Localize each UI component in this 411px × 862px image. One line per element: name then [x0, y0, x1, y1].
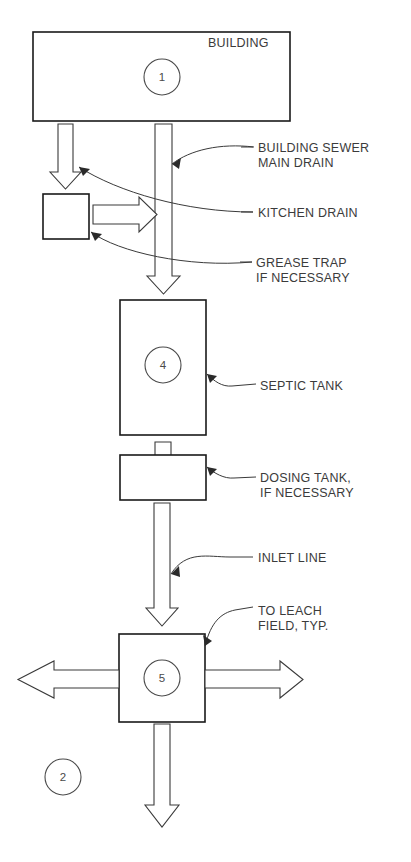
- leach-field-right-arrow: [205, 661, 303, 698]
- to-leach-field-label-line-1: TO LEACH: [258, 604, 322, 618]
- callout-dosing-tank[interactable]: DOSING TANK, IF NECESSARY: [207, 467, 354, 500]
- detail-tag-2[interactable]: 2: [45, 759, 81, 795]
- building-label: BUILDING: [208, 36, 269, 50]
- node-distribution-box[interactable]: 5: [119, 634, 205, 722]
- kitchen-drain-label: KITCHEN DRAIN: [258, 206, 358, 220]
- dosing-tank-arrowhead: [207, 467, 217, 476]
- grease-trap-label-line-2: IF NECESSARY: [256, 271, 350, 285]
- building-sewer-label-line-2: MAIN DRAIN: [258, 156, 334, 170]
- building-sewer-leader-curve: [172, 146, 254, 164]
- node-septic-tank[interactable]: 4: [120, 300, 206, 435]
- to-leach-field-leader: [205, 607, 253, 646]
- septic-flow-diagram: BUILDING 1 4 5: [0, 0, 411, 862]
- building-sewer-arrowhead: [172, 158, 181, 169]
- building-tag-number: 1: [159, 71, 165, 83]
- grease-trap-box[interactable]: [43, 194, 89, 239]
- detail-2-tag-number: 2: [60, 771, 66, 783]
- to-leach-field-label-line-2: FIELD, TYP.: [258, 619, 329, 633]
- grease-trap-arrowhead: [91, 232, 102, 241]
- grease-trap-label-line-1: GREASE TRAP: [256, 256, 347, 270]
- dosing-tank-label-line-1: DOSING TANK,: [260, 471, 351, 485]
- node-grease-trap[interactable]: [43, 194, 89, 239]
- callout-grease-trap[interactable]: GREASE TRAP IF NECESSARY: [91, 232, 350, 285]
- leach-field-left-arrow: [18, 661, 119, 698]
- septic-tank-tag-number: 4: [160, 359, 167, 371]
- callout-to-leach-field[interactable]: TO LEACH FIELD, TYP.: [203, 604, 329, 646]
- dosing-tank-label-line-2: IF NECESSARY: [260, 486, 354, 500]
- dosing-tank-box[interactable]: [120, 455, 206, 500]
- node-dosing-tank[interactable]: [120, 455, 206, 500]
- callout-inlet-line[interactable]: INLET LINE: [171, 551, 326, 577]
- leach-field-down-arrow: [145, 724, 179, 827]
- inlet-line-leader: [171, 556, 253, 574]
- dosing-outlet-arrow: [146, 503, 178, 626]
- distribution-box-tag-number: 5: [159, 672, 165, 684]
- node-building[interactable]: BUILDING 1: [33, 32, 290, 121]
- callout-septic-tank[interactable]: SEPTIC TANK: [207, 374, 343, 393]
- inlet-line-label: INLET LINE: [258, 551, 326, 565]
- callout-building-sewer-main-drain[interactable]: BUILDING SEWER MAIN DRAIN: [172, 141, 369, 170]
- diagram-canvas: BUILDING 1 4 5: [0, 0, 411, 862]
- kitchen-drain-arrow: [50, 124, 81, 189]
- septic-tank-label: SEPTIC TANK: [260, 379, 343, 393]
- grease-trap-outlet-arrow: [93, 197, 157, 232]
- building-sewer-label-line-1: BUILDING SEWER: [258, 141, 369, 155]
